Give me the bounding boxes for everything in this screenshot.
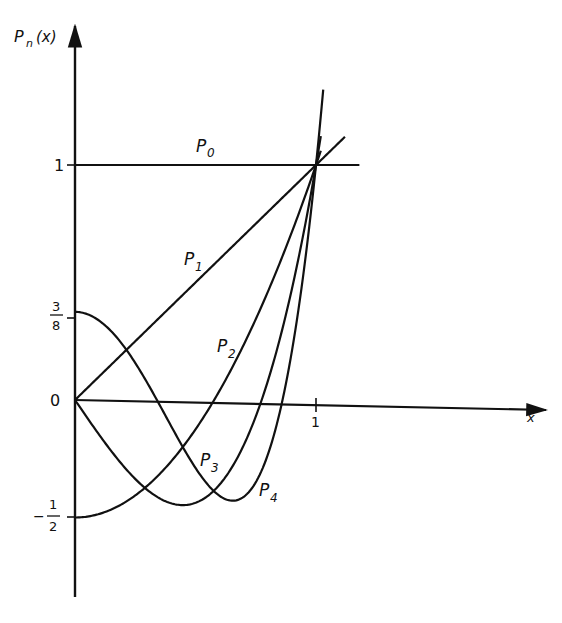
svg-text:(x): (x) — [36, 28, 57, 46]
svg-text:1: 1 — [49, 497, 57, 512]
y-axis-label: P n (x) — [14, 27, 57, 50]
svg-text:P: P — [200, 450, 211, 470]
y-tick-minus-1-2: − 1 2 — [33, 497, 75, 534]
label-p1: P 1 — [184, 249, 203, 274]
svg-text:P: P — [184, 249, 195, 269]
y-tick-0: 0 — [50, 391, 60, 410]
svg-text:3: 3 — [52, 299, 60, 314]
label-p0: P 0 — [196, 136, 215, 160]
svg-text:P: P — [259, 480, 270, 500]
label-p2: P 2 — [217, 336, 236, 361]
svg-text:P: P — [196, 136, 207, 156]
x-tick-1: 1 — [311, 398, 320, 430]
svg-text:−: − — [33, 508, 45, 524]
legendre-polynomials-chart: P n (x) x 1 3 8 0 − 1 2 1 P 0 P 1 P 2 — [0, 0, 562, 623]
y-tick-1: 1 — [54, 156, 75, 175]
x-axis-label: x — [526, 410, 535, 425]
curve-p2 — [75, 151, 321, 518]
curve-p3 — [75, 136, 321, 505]
svg-text:8: 8 — [52, 318, 60, 333]
x-axis — [75, 400, 546, 410]
svg-text:2: 2 — [228, 347, 236, 361]
label-p3: P 3 — [200, 450, 219, 475]
svg-text:0: 0 — [50, 391, 60, 410]
label-p4: P 4 — [259, 480, 278, 505]
curve-group — [75, 90, 359, 518]
y-tick-3-8: 3 8 — [50, 299, 75, 333]
svg-text:3: 3 — [211, 461, 219, 475]
svg-text:0: 0 — [207, 146, 215, 160]
svg-text:P: P — [14, 27, 24, 46]
svg-text:4: 4 — [270, 491, 278, 505]
svg-text:1: 1 — [54, 156, 64, 175]
svg-text:1: 1 — [311, 414, 320, 430]
svg-text:1: 1 — [195, 260, 203, 274]
svg-text:2: 2 — [49, 519, 57, 534]
svg-text:n: n — [26, 37, 33, 50]
svg-text:P: P — [217, 336, 228, 356]
